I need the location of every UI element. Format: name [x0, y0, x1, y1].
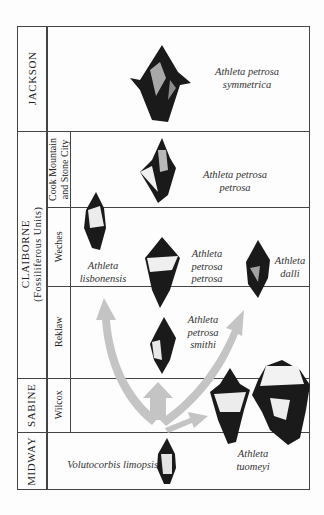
label-petrosa-weches: Athleta petrosa petrosa: [182, 248, 232, 286]
shell-tuomeyi-large: [252, 360, 310, 445]
label-smithi: Athleta petrosa smithi: [178, 314, 228, 352]
shell-volutocorbis: [157, 438, 176, 484]
label-petrosa-cook: Athleta petrosa petrosa: [185, 169, 285, 194]
shell-symmetrica: [130, 45, 191, 122]
shell-petrosa-weches: [145, 237, 180, 308]
shell-dalli: [246, 240, 270, 298]
label-lisbonensis: Athleta lisbonensis: [68, 260, 138, 285]
shell-lisbonensis: [84, 192, 106, 250]
label-volutocorbis: Volutocorbis limopsis: [52, 459, 158, 472]
label-dalli: Athleta dalli: [270, 255, 310, 280]
shell-petrosa-cook: [140, 138, 176, 203]
shell-tuomeyi-small: [210, 368, 250, 444]
arrow-to-lisbonensis: [96, 298, 158, 425]
shell-smithi: [150, 317, 176, 374]
label-symmetrica: Athleta petrosa symmetrica: [192, 66, 302, 91]
label-tuomeyi: Athleta tuomeyi: [228, 448, 278, 473]
